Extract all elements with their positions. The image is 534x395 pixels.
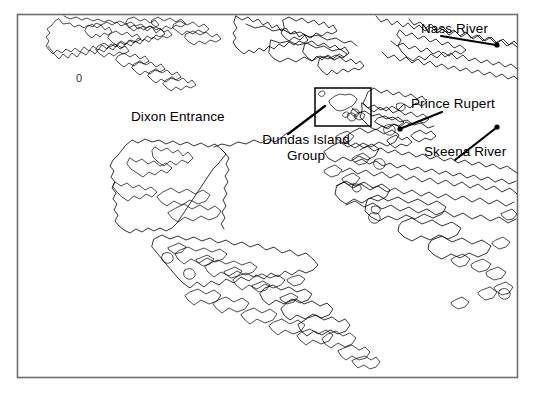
coast-right-edge-islet-1	[501, 209, 517, 220]
coast-banks-island	[335, 181, 390, 204]
coast-se-islet-1	[451, 254, 470, 267]
coast-graham-se-lobe	[168, 204, 221, 222]
coast-pr-islet-3	[387, 135, 412, 148]
coast-island-fragment-g	[163, 77, 196, 91]
label-prince-rupert: Prince Rupert	[411, 96, 495, 111]
coastlines	[46, 16, 517, 369]
coast-narrow-strip	[269, 40, 347, 62]
coast-mid-islet-3	[324, 165, 342, 177]
coast-island-fragment-f	[148, 69, 181, 83]
coast-south-fragment-3	[241, 308, 277, 324]
coast-island-cluster-1	[48, 16, 172, 59]
coast-graham-peninsula	[157, 188, 210, 206]
coast-island-fragment-a	[85, 24, 112, 38]
coast-island-fragment-b	[108, 31, 141, 45]
coast-moresby-inner-1	[175, 247, 227, 264]
map-canvas	[0, 0, 534, 395]
coast-graham-sw-notch	[113, 182, 157, 201]
coast-right-edge-islet-4	[478, 287, 497, 300]
coast-moresby-tail-2	[281, 299, 333, 320]
coast-graham-east-channel	[221, 152, 229, 229]
coast-dundas-islet-small	[319, 91, 326, 96]
label-dundas-island-group-line1: Dundas Island	[254, 132, 358, 148]
coast-moresby-islet-e	[280, 293, 298, 304]
map-figure: Dixon Entrance Nass River Prince Rupert …	[0, 0, 534, 395]
coast-pr-islet-2	[411, 130, 436, 142]
nass-river-marker-dot	[494, 42, 499, 47]
coast-graham-island	[110, 139, 226, 233]
label-dixon-entrance: Dixon Entrance	[131, 109, 225, 124]
coast-right-edge-islet-2	[492, 237, 510, 249]
coast-small-isle-left	[162, 253, 174, 264]
coast-channel-long	[246, 24, 357, 46]
label-zero-marker: 0	[76, 71, 82, 86]
label-skeena-river: Skeena River	[424, 144, 506, 159]
label-dundas-island-group-line2: Group	[254, 148, 358, 164]
coast-south-fragment-4	[269, 319, 305, 335]
coast-se-islet-3	[486, 267, 506, 280]
coast-small-oval-right-2	[369, 213, 381, 224]
coast-small-isle-left-2	[184, 269, 196, 280]
skeena-river-marker-dot	[494, 124, 499, 129]
dundas-island-leader-line	[288, 106, 325, 134]
coast-graham-inner-inlet	[152, 147, 193, 166]
coast-peninsula-n	[318, 56, 364, 75]
prince-rupert-marker-dot	[397, 126, 402, 131]
coast-mainland-se-3	[346, 201, 516, 223]
coast-right-edge-islet-3	[451, 297, 469, 309]
coast-mid-islet-4	[342, 173, 360, 185]
coast-dundas-islet-se-3	[343, 112, 350, 117]
coast-graham-inner-inlet-2	[127, 158, 172, 177]
coast-island-fragment-k	[185, 31, 221, 45]
coast-skeena-estuary-south	[355, 159, 516, 184]
coast-alaska-nw	[46, 19, 165, 54]
coast-se-island-a	[398, 218, 461, 241]
coast-sgang-gwaay	[287, 275, 305, 286]
coast-moresby-tail-5	[338, 345, 370, 360]
coast-pitt-island	[365, 195, 446, 221]
coast-south-fragment-1	[185, 289, 221, 305]
coast-island-fragment-i	[152, 17, 186, 30]
coast-se-islet-2	[471, 259, 491, 272]
coast-mainland-north	[233, 16, 308, 54]
coast-mainland-se-1	[342, 168, 517, 194]
label-dundas-island-group: Dundas Island Group	[254, 132, 358, 164]
coast-island-fragment-e	[132, 61, 165, 75]
coast-island-fragment-d	[116, 53, 149, 67]
label-nass-river: Nass River	[421, 21, 488, 36]
